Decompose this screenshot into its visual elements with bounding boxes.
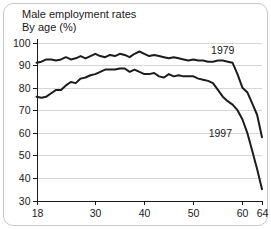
series-group bbox=[37, 52, 263, 190]
y-tick-label: 30 bbox=[19, 195, 31, 207]
line-chart-svg: 30405060708090100 183040506064 19791997 bbox=[0, 0, 271, 229]
gridlines-group bbox=[37, 44, 263, 202]
series-label-1979: 1979 bbox=[211, 44, 235, 56]
x-tick-labels-group: 183040506064 bbox=[32, 207, 269, 219]
y-tick-label: 60 bbox=[19, 127, 31, 139]
x-tick-label: 60 bbox=[237, 207, 249, 219]
y-tick-labels-group: 30405060708090100 bbox=[13, 37, 31, 207]
x-tick-label: 50 bbox=[188, 207, 200, 219]
y-tick-label: 40 bbox=[19, 172, 31, 184]
x-tick-label: 18 bbox=[32, 207, 44, 219]
x-tick-label: 40 bbox=[139, 207, 151, 219]
plot-area-wrapper: 30405060708090100 183040506064 19791997 bbox=[0, 0, 271, 229]
x-tick-label: 30 bbox=[90, 207, 102, 219]
series-label-1997: 1997 bbox=[209, 127, 233, 139]
y-tick-label: 70 bbox=[19, 104, 31, 116]
y-tick-label: 50 bbox=[19, 149, 31, 161]
series-annotation-group: 19791997 bbox=[209, 44, 235, 140]
x-tick-label: 64 bbox=[257, 207, 269, 219]
chart-figure: Male employment rates By age (%) 3040506… bbox=[0, 0, 271, 229]
y-tick-label: 90 bbox=[19, 59, 31, 71]
y-tick-label: 100 bbox=[13, 37, 31, 49]
y-axis-ticks-group bbox=[33, 44, 37, 202]
series-line-1979 bbox=[37, 52, 263, 138]
y-tick-label: 80 bbox=[19, 82, 31, 94]
